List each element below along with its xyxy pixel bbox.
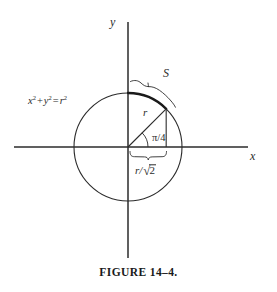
brace-half-chord (130, 152, 167, 160)
x-axis-label: x (250, 150, 255, 162)
equation-exponent-r: 2 (64, 94, 67, 101)
radius-label: r (143, 107, 147, 118)
equation-equals-sign: = (52, 95, 60, 106)
half-chord-radicand: 2 (149, 164, 156, 176)
equation-plus-sign: + (36, 95, 44, 106)
figure-14-4: y x S r π/4 x2+y2=r2 r/√2 FIGURE 14–4. (0, 0, 277, 292)
circle-equation-label: x2+y2=r2 (28, 96, 67, 107)
y-axis-label: y (110, 16, 115, 28)
square-root-icon: √2 (142, 163, 156, 176)
figure-caption: FIGURE 14–4. (0, 266, 277, 278)
arc-length-label: S (163, 67, 169, 79)
figure-drawing (0, 0, 277, 292)
half-chord-label: r/√2 (135, 163, 156, 176)
angle-label: π/4 (152, 133, 165, 144)
angle-arc-marker (142, 133, 148, 147)
